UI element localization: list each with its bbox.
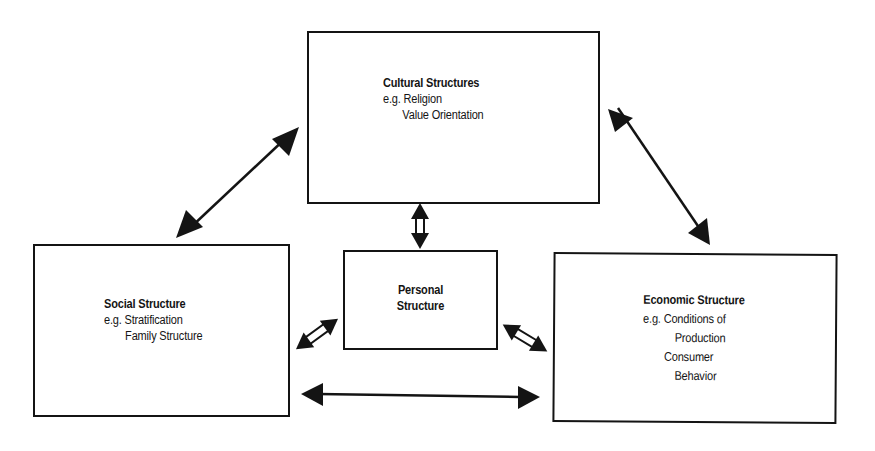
arrowhead-icon — [272, 127, 299, 156]
economic-structure-box: Economic Structure e.g. Conditions of Pr… — [552, 252, 837, 424]
social-example-stratification: e.g. Stratification — [104, 312, 202, 328]
cultural-example-religion: e.g. Religion — [383, 91, 484, 107]
cultural-structures-box: Cultural Structures e.g. Religion Value … — [307, 31, 600, 204]
personal-structure-text: Personal Structure — [345, 282, 496, 314]
economic-example-consumer: Consumer — [643, 348, 744, 368]
economic-example-production: Production — [643, 329, 744, 349]
arrowhead-icon — [411, 233, 429, 249]
social-example-family-structure: Family Structure — [104, 328, 202, 344]
arrowhead-icon — [291, 333, 315, 357]
arrowhead-icon — [301, 383, 323, 406]
cultural-structures-title: Cultural Structures — [383, 75, 484, 91]
economic-structure-text: Economic Structure e.g. Conditions of Pr… — [643, 291, 759, 387]
economic-example-conditions-of: e.g. Conditions of — [643, 310, 744, 330]
arrowhead-icon — [518, 386, 540, 409]
arrowhead-icon — [608, 109, 633, 132]
arrowhead-icon — [688, 218, 710, 245]
social-structure-box: Social Structure e.g. Stratification Fam… — [33, 244, 290, 417]
arrow-social-personal — [291, 311, 344, 356]
arrowhead-icon — [320, 311, 344, 335]
economic-structure-title: Economic Structure — [643, 291, 744, 311]
arrowhead-icon — [529, 335, 552, 359]
arrow-personal-economic — [498, 317, 552, 359]
social-structure-title: Social Structure — [104, 296, 202, 312]
structures-diagram: Cultural Structures e.g. Religion Value … — [0, 0, 875, 451]
cultural-example-value-orientation: Value Orientation — [383, 107, 484, 123]
personal-structure-title-line2: Structure — [354, 298, 487, 314]
personal-structure-title-line1: Personal — [354, 282, 487, 298]
arrow-cultural-personal — [411, 203, 429, 249]
arrowhead-icon — [176, 210, 203, 238]
personal-structure-box: Personal Structure — [343, 250, 498, 350]
arrow-social-economic — [301, 383, 540, 409]
social-structure-text: Social Structure e.g. Stratification Fam… — [104, 296, 216, 344]
economic-example-behavior: Behavior — [643, 367, 744, 387]
arrowhead-icon — [498, 317, 521, 341]
arrowhead-icon — [411, 203, 429, 219]
cultural-structures-text: Cultural Structures e.g. Religion Value … — [383, 75, 497, 123]
arrow-cultural-economic — [608, 108, 710, 245]
arrow-social-cultural — [176, 127, 299, 238]
